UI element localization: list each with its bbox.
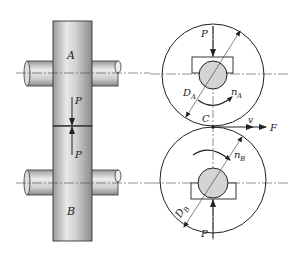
diameter-a-label: D A <box>182 87 196 101</box>
speed-b-label: n B <box>234 149 245 163</box>
force-bottom-label: P <box>74 149 82 160</box>
rotation-b-icon <box>193 150 230 160</box>
svg-text:A: A <box>236 92 242 100</box>
hub-a <box>199 61 227 89</box>
force-top-label: P <box>200 28 208 39</box>
front-view: P P C v F D A n A n B D B <box>150 24 290 240</box>
rotation-a-icon <box>198 97 232 105</box>
hub-b <box>198 168 228 198</box>
diameter-b-label: D B <box>172 202 191 221</box>
roller-a-label: A <box>66 49 75 62</box>
svg-text:D: D <box>182 87 191 98</box>
contact-label: C <box>202 113 210 124</box>
svg-text:B: B <box>239 155 245 163</box>
friction-force-label: F <box>269 122 278 133</box>
speed-a-label: n A <box>231 86 242 100</box>
roller-b-label: B <box>66 205 75 218</box>
svg-text:A: A <box>190 93 196 101</box>
left-side-view: A B P P <box>16 21 150 241</box>
force-top-label: P <box>74 95 82 106</box>
force-bottom-label: P <box>200 228 208 239</box>
friction-wheel-diagram: A B P P P P C v <box>0 0 297 260</box>
velocity-label: v <box>248 115 253 125</box>
